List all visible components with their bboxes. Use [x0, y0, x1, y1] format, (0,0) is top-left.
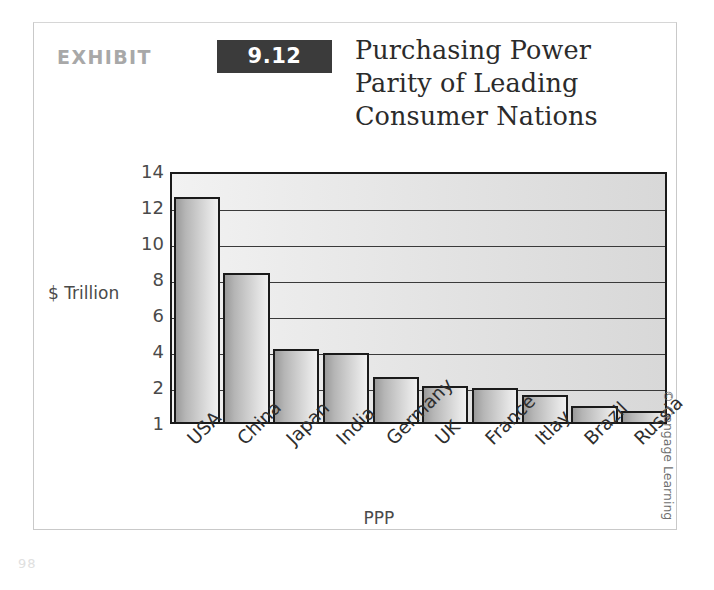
x-tick-label-france: France	[481, 390, 539, 448]
x-tick-label-india: India	[332, 402, 379, 449]
x-tick-label-japan: Japan	[282, 398, 333, 449]
page-number-artifact: 98	[18, 556, 37, 571]
x-axis-title-text: PPP	[364, 508, 395, 528]
x-tick-label-itlay: Itlay	[531, 406, 574, 449]
credit-line: © Cengage Learning	[661, 390, 676, 550]
x-tick-label-usa: USA	[183, 407, 225, 449]
x-tick-label-russia: Russia	[630, 392, 687, 449]
x-tick-label-china: China	[233, 397, 285, 449]
x-tick-label-uk: UK	[431, 416, 464, 449]
x-axis-title: PPP	[0, 508, 714, 528]
x-tick-label-brazil: Brazil	[580, 397, 631, 448]
ppp-bar-chart: 14121086421 $ Trillion USAChinaJapanIndi…	[0, 0, 714, 590]
x-axis-labels: USAChinaJapanIndiaGermanyUKFranceItlayBr…	[0, 0, 714, 590]
